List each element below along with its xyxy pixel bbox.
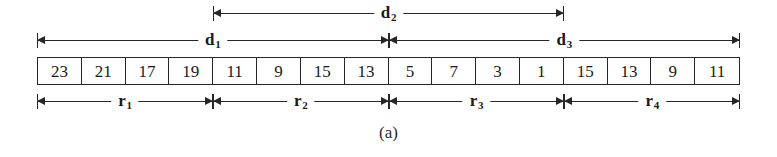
span-endpoint-tick	[564, 94, 565, 109]
span-label: r3	[463, 88, 490, 114]
span-label-subscript: 1	[126, 99, 132, 111]
arrowhead-left-icon	[389, 97, 397, 105]
figure-caption: (a)	[0, 123, 777, 143]
arrowhead-left-icon	[213, 9, 221, 17]
span-endpoint-tick	[739, 94, 740, 109]
span-label: r4	[638, 88, 665, 114]
span-label: d3	[550, 27, 579, 53]
span-d2: d2	[213, 0, 565, 26]
array-cell: 7	[432, 58, 476, 84]
array-cell: 15	[301, 58, 345, 84]
span-endpoint-tick	[213, 94, 214, 109]
array-cell: 17	[126, 58, 170, 84]
span-endpoint-tick	[213, 6, 214, 21]
span-endpoint-tick	[37, 94, 38, 109]
span-label-subscript: 2	[391, 11, 397, 23]
span-label: d1	[198, 27, 227, 53]
span-row-second: d1d3	[0, 27, 777, 53]
span-label: r2	[287, 88, 314, 114]
arrowhead-left-icon	[37, 97, 45, 105]
span-endpoint-tick	[37, 33, 38, 48]
arrowhead-left-icon	[389, 36, 397, 44]
span-label-subscript: 3	[567, 38, 573, 50]
span-label-subscript: 4	[654, 99, 660, 111]
span-r4: r4	[564, 88, 740, 114]
span-label-text: d	[381, 3, 391, 22]
arrowhead-left-icon	[37, 36, 45, 44]
array-cell: 9	[257, 58, 301, 84]
span-endpoint-tick	[739, 33, 740, 48]
span-label: d2	[374, 0, 403, 26]
array-cell: 13	[608, 58, 652, 84]
array-cell: 21	[82, 58, 126, 84]
array-cell: 11	[695, 58, 739, 84]
array-cell: 19	[169, 58, 213, 84]
span-row-top: d2	[0, 0, 777, 26]
span-label: r1	[111, 88, 138, 114]
array-cell: 15	[564, 58, 608, 84]
span-label-subscript: 3	[478, 99, 484, 111]
span-row-bottom: r1r2r3r4	[0, 88, 777, 114]
array-cell: 9	[651, 58, 695, 84]
span-label-subscript: 1	[215, 38, 221, 50]
arrowhead-left-icon	[213, 97, 221, 105]
array-cell: 13	[345, 58, 389, 84]
span-r2: r2	[213, 88, 389, 114]
span-d3: d3	[389, 27, 741, 53]
span-label-text: d	[557, 30, 567, 49]
span-label-text: d	[205, 30, 215, 49]
span-endpoint-tick	[389, 94, 390, 109]
array-cell: 1	[520, 58, 564, 84]
array-cell: 23	[38, 58, 82, 84]
span-label-text: r	[118, 91, 126, 110]
span-label-subscript: 2	[302, 99, 308, 111]
span-label-text: r	[645, 91, 653, 110]
array-cell: 5	[389, 58, 433, 84]
array-cell: 3	[476, 58, 520, 84]
span-r3: r3	[389, 88, 565, 114]
span-r1: r1	[37, 88, 213, 114]
value-array: 23211719119151357311513911	[37, 57, 740, 85]
span-endpoint-tick	[563, 6, 564, 21]
array-cell: 11	[213, 58, 257, 84]
span-d1: d1	[37, 27, 389, 53]
arrowhead-left-icon	[564, 97, 572, 105]
span-endpoint-tick	[389, 33, 390, 48]
figure-panel-a: d2 d1d3 23211719119151357311513911 r1r2r…	[0, 0, 777, 157]
span-label-text: r	[470, 91, 478, 110]
span-label-text: r	[294, 91, 302, 110]
